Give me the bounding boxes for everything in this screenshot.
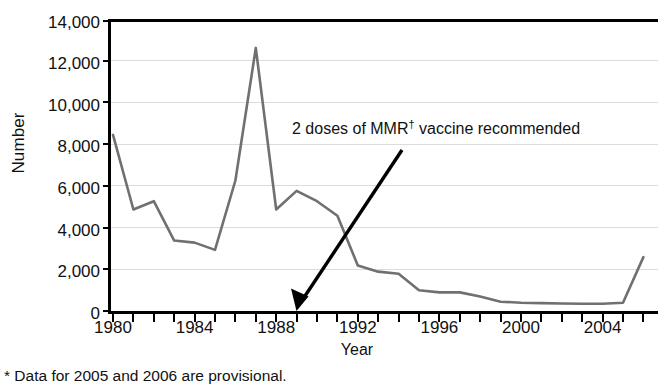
x-tick-label: 1996 — [399, 318, 479, 338]
x-axis-title: Year — [0, 341, 658, 359]
x-tick-label: 1984 — [155, 318, 235, 338]
annotation-text-prefix: 2 doses of MMR — [292, 120, 408, 137]
annotation-text-suffix: vaccine recommended — [415, 120, 580, 137]
footnote: * Data for 2005 and 2006 are provisional… — [4, 366, 287, 385]
x-tick-label: 1992 — [318, 318, 398, 338]
x-tick-label: 1988 — [236, 318, 316, 338]
x-axis-title-text: Year — [341, 341, 373, 358]
annotation-arrow — [291, 150, 402, 311]
gridlines — [109, 61, 658, 270]
data-line-series-0 — [113, 48, 643, 304]
x-tick-label: 2000 — [481, 318, 561, 338]
x-tick-label: 1980 — [73, 318, 153, 338]
annotation-label: 2 doses of MMR† vaccine recommended — [292, 119, 580, 138]
chart-figure: Number 14,000 12,000 10,000 8,000 6,000 … — [0, 0, 658, 390]
x-tick-label: 2004 — [563, 318, 643, 338]
